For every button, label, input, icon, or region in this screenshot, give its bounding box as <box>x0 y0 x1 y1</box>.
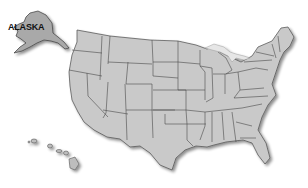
hawaii <box>28 139 79 170</box>
alaska <box>14 11 69 53</box>
us-map <box>0 0 308 188</box>
alaska-label: ALASKA <box>8 22 44 32</box>
contiguous-us <box>69 27 294 170</box>
